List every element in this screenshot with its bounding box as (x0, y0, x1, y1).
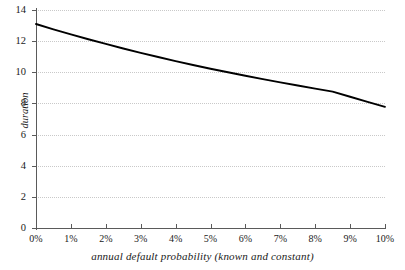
y-tick (32, 41, 36, 42)
y-tick (32, 135, 36, 136)
x-tick (211, 224, 212, 228)
gridline (36, 72, 385, 73)
x-tick (280, 224, 281, 228)
y-tick-label: 10 (0, 67, 26, 77)
x-tick (245, 224, 246, 228)
x-tick (106, 224, 107, 228)
x-tick-label: 9% (333, 234, 367, 244)
gridline (36, 166, 385, 167)
y-tick (32, 72, 36, 73)
chart-figure: 02468101214 0%1%2%3%4%5%6%7%8%9%10% dura… (0, 0, 405, 270)
gridline (36, 135, 385, 136)
x-axis-title: annual default probability (known and co… (0, 250, 405, 262)
y-tick (32, 228, 36, 229)
x-tick (71, 224, 72, 228)
y-tick (32, 197, 36, 198)
x-tick (141, 224, 142, 228)
y-tick (32, 166, 36, 167)
x-tick (385, 224, 386, 228)
y-tick-label: 4 (0, 161, 26, 171)
y-tick (32, 10, 36, 11)
x-tick (315, 224, 316, 228)
x-tick-label: 8% (298, 234, 332, 244)
x-tick-label: 1% (54, 234, 88, 244)
x-tick-label: 5% (194, 234, 228, 244)
x-tick-label: 6% (228, 234, 262, 244)
y-tick-label: 2 (0, 192, 26, 202)
x-tick (176, 224, 177, 228)
y-tick (32, 103, 36, 104)
x-tick (350, 224, 351, 228)
y-tick-label: 0 (0, 223, 26, 233)
x-tick-label: 3% (124, 234, 158, 244)
x-tick-label: 10% (368, 234, 402, 244)
x-tick (36, 224, 37, 228)
gridline (36, 41, 385, 42)
gridline (36, 197, 385, 198)
x-tick-label: 4% (159, 234, 193, 244)
y-axis-line (36, 8, 37, 230)
x-axis-line (35, 228, 386, 229)
x-tick-label: 2% (89, 234, 123, 244)
gridline (36, 10, 385, 11)
y-tick-label: 14 (0, 5, 26, 15)
gridline (36, 103, 385, 104)
y-tick-label: 12 (0, 36, 26, 46)
x-tick-label: 0% (19, 234, 53, 244)
x-tick-label: 7% (263, 234, 297, 244)
y-axis-title: duration (19, 81, 30, 141)
